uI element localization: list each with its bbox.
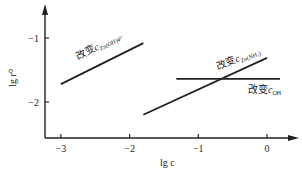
series-label-2: 改变cZn(NH₃) bbox=[214, 44, 262, 74]
x-tick-label: −2 bbox=[124, 143, 135, 154]
y-axis-label: lg r⁰ bbox=[7, 69, 18, 87]
x-tick-label: −1 bbox=[193, 143, 204, 154]
series-label-1: 改变cZn(OH)4²⁻ bbox=[73, 28, 125, 64]
x-axis-arrow bbox=[288, 135, 299, 141]
y-tick-label: −2 bbox=[28, 97, 39, 108]
series-label-3: 改变cOH bbox=[248, 83, 282, 96]
ticks: −3−2−10−1−2 bbox=[28, 33, 269, 154]
y-axis-arrow bbox=[42, 4, 48, 15]
x-axis-label: lg c bbox=[160, 157, 175, 168]
x-tick-label: −3 bbox=[56, 143, 67, 154]
axes bbox=[42, 4, 299, 141]
x-tick-label: 0 bbox=[265, 143, 270, 154]
y-tick-label: −1 bbox=[28, 33, 39, 44]
chart: −3−2−10−1−2 改变cZn(OH)4²⁻改变cZn(NH₃)改变cOH … bbox=[0, 0, 302, 175]
